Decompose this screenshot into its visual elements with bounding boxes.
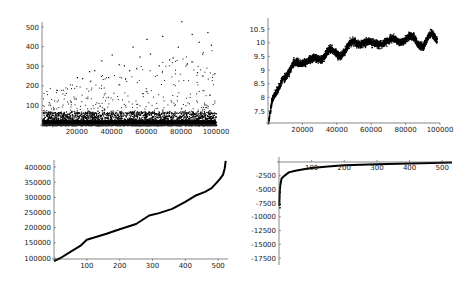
x-tick-label: 40000 xyxy=(100,128,122,136)
axes: 100200300400500-2500-5000-7500-10000-125… xyxy=(251,157,452,265)
y-tick-label: -15000 xyxy=(251,241,276,249)
x-tick-label: 60000 xyxy=(135,128,157,136)
y-tick-label: 300 xyxy=(26,63,39,71)
y-tick-label: 10.5 xyxy=(249,26,265,34)
x-tick-label: 20000 xyxy=(66,128,88,136)
y-tick-label: 9.5 xyxy=(254,53,265,61)
x-tick-label: 80000 xyxy=(170,128,192,136)
y-tick-label: -5000 xyxy=(256,186,276,194)
scatter-plot-top-left: 2000040000600008000010000010020030040050… xyxy=(0,0,236,141)
x-tick-label: 200 xyxy=(113,262,126,270)
y-tick-label: 150000 xyxy=(24,239,51,247)
y-tick-label: -7500 xyxy=(256,200,276,208)
y-tick-label: 500 xyxy=(26,24,39,32)
plot-area xyxy=(54,161,226,261)
x-tick-label: 40000 xyxy=(326,126,348,134)
y-tick-label: 200 xyxy=(26,82,39,90)
figure-grid: 2000040000600008000010000010020030040050… xyxy=(0,0,472,282)
x-tick-label: 300 xyxy=(146,262,159,270)
y-tick-label: 8.5 xyxy=(254,80,265,88)
y-tick-label: 250000 xyxy=(24,209,51,217)
x-tick-label: 300 xyxy=(370,164,383,172)
y-tick-label: -12500 xyxy=(251,227,276,235)
plot-area xyxy=(268,29,438,124)
y-tick-label: 300000 xyxy=(24,194,51,202)
x-tick-label: 200 xyxy=(338,164,351,172)
y-tick-label: 400 xyxy=(26,43,39,51)
axes: 1002003004005001000001500002000002500003… xyxy=(24,160,228,270)
y-tick-label: 100 xyxy=(26,102,39,110)
y-tick-label: -2500 xyxy=(256,172,276,180)
x-tick-label: 100000 xyxy=(427,126,454,134)
x-tick-label: 500 xyxy=(436,164,449,172)
x-tick-label: 20000 xyxy=(291,126,313,134)
axes: 200004000060000800001000007.588.599.5101… xyxy=(249,18,453,134)
y-tick-label: -17500 xyxy=(251,255,276,263)
x-tick-label: 500 xyxy=(211,262,224,270)
x-tick-label: 400 xyxy=(179,262,192,270)
y-tick-label: 200000 xyxy=(24,224,51,232)
y-tick-label: 10 xyxy=(256,39,265,47)
x-tick-label: 80000 xyxy=(394,126,416,134)
y-tick-label: 100000 xyxy=(24,255,51,263)
scatter-plot-top-right: 200004000060000800001000007.588.599.5101… xyxy=(236,0,472,141)
x-tick-label: 100000 xyxy=(203,128,230,136)
x-tick-label: 400 xyxy=(403,164,416,172)
y-tick-label: -10000 xyxy=(251,213,276,221)
line-plot-bottom-left: 1002003004005001000001500002000002500003… xyxy=(0,141,236,282)
y-tick-label: 9 xyxy=(261,67,265,75)
y-tick-label: 400000 xyxy=(24,164,51,172)
y-tick-label: 7.5 xyxy=(254,108,265,116)
plot-area xyxy=(42,21,217,126)
y-tick-label: 8 xyxy=(261,94,265,102)
y-tick-label: 350000 xyxy=(24,179,51,187)
x-tick-label: 100 xyxy=(80,262,93,270)
x-tick-label: 100 xyxy=(305,164,318,172)
line-plot-bottom-right: 100200300400500-2500-5000-7500-10000-125… xyxy=(236,141,472,282)
x-tick-label: 60000 xyxy=(360,126,382,134)
